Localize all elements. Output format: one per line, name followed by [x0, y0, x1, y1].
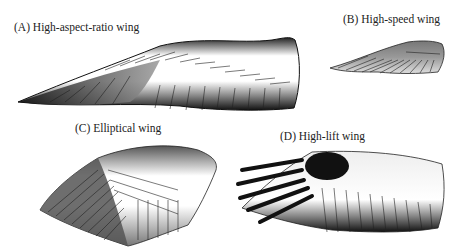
panel-b-label: (B) High-speed wing	[343, 13, 440, 25]
high-aspect-ratio-wing-illustration	[10, 30, 310, 115]
elliptical-wing-illustration	[38, 140, 223, 248]
panel-d-label: (D) High-lift wing	[280, 130, 365, 142]
high-lift-wing-illustration	[232, 148, 447, 238]
panel-c-label: (C) Elliptical wing	[75, 122, 161, 134]
high-speed-wing-illustration	[328, 38, 448, 78]
